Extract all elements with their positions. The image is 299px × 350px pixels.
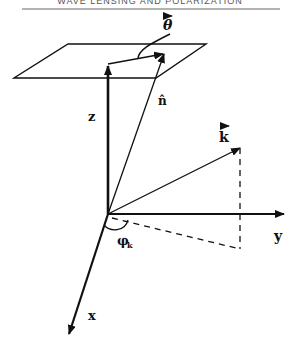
k-label: k — [219, 129, 229, 145]
n-hat-label: n̂ — [158, 94, 167, 108]
y-label: y — [273, 228, 283, 244]
z-label: z — [88, 109, 95, 124]
x-label: x — [88, 308, 96, 323]
coordinate-diagram: WAVE LENSING AND POLARIZATION θ n̂ z k y… — [0, 0, 299, 350]
page-header: WAVE LENSING AND POLARIZATION — [57, 0, 242, 6]
phi-subscript: k — [127, 240, 133, 250]
polarization-plane — [14, 44, 206, 78]
diagram-canvas: WAVE LENSING AND POLARIZATION θ n̂ z k y… — [0, 0, 299, 350]
theta-label: θ — [163, 17, 173, 33]
theta-vector — [108, 54, 163, 64]
